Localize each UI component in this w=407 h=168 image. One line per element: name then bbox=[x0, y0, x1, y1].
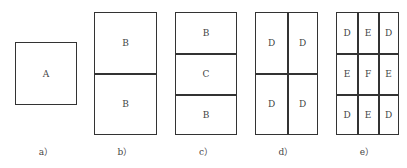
cell-d-1: D bbox=[256, 13, 287, 73]
caption-c: c） bbox=[186, 145, 226, 158]
cell-d-4: D bbox=[288, 74, 317, 134]
cell-c-3: B bbox=[176, 95, 236, 134]
cell-c-2: C bbox=[176, 54, 236, 94]
cell-a: A bbox=[16, 43, 76, 104]
panel-d: D D D D bbox=[255, 12, 318, 135]
cell-e-4: E bbox=[337, 54, 357, 94]
caption-b: b） bbox=[105, 145, 145, 158]
cell-e-6: E bbox=[379, 54, 398, 94]
cell-e-1: D bbox=[337, 13, 357, 53]
panel-c: B C B bbox=[175, 12, 237, 135]
cell-e-9: D bbox=[379, 95, 398, 134]
caption-a: a） bbox=[26, 145, 66, 158]
cell-d-3: D bbox=[256, 74, 287, 134]
cell-b-top: B bbox=[95, 13, 156, 74]
cell-e-2: E bbox=[358, 13, 378, 53]
cell-c-1: B bbox=[176, 13, 236, 53]
cell-e-5: F bbox=[358, 54, 378, 94]
caption-d: d） bbox=[266, 145, 306, 158]
cell-e-7: D bbox=[337, 95, 357, 134]
cell-e-8: E bbox=[358, 95, 378, 134]
cell-d-2: D bbox=[288, 13, 317, 73]
cell-b-bottom: B bbox=[95, 74, 156, 135]
panel-e: D E D E F E D E D bbox=[336, 12, 399, 135]
cell-e-3: D bbox=[379, 13, 398, 53]
panel-a: A bbox=[15, 42, 77, 105]
caption-e: e） bbox=[347, 145, 387, 158]
panel-b: B B bbox=[94, 12, 157, 135]
